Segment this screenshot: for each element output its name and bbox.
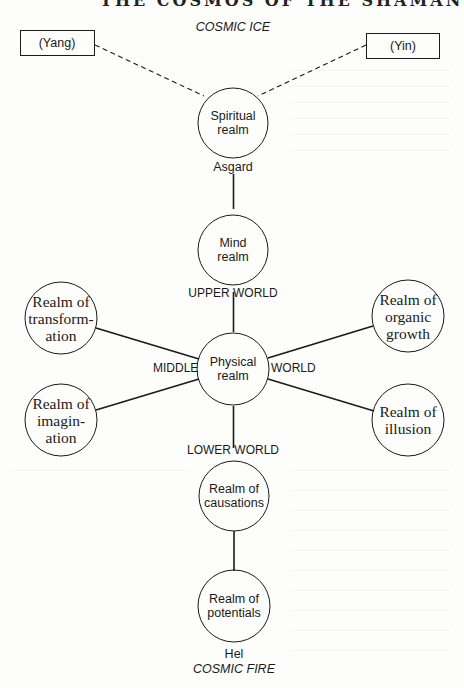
world-label: WORLD xyxy=(271,362,316,374)
cosmology-diagram: THE COSMOS OF THE SHAMAN xyxy=(0,0,464,688)
lower-world-label: LOWER WORLD xyxy=(187,444,279,456)
node-line: realm xyxy=(217,250,248,264)
mind-realm-node: Mind realm xyxy=(217,236,248,264)
node-line: realm xyxy=(210,123,255,137)
cosmic-fire-label: COSMIC FIRE xyxy=(193,663,275,676)
node-line: Physical xyxy=(210,355,257,369)
node-line: Mind xyxy=(217,236,248,250)
middle-label: MIDDLE xyxy=(153,362,198,374)
node-line: causations xyxy=(204,496,264,510)
node-line: Realm of xyxy=(204,482,264,496)
yin-connector xyxy=(258,45,366,96)
potentials-realm-node: Realm of potentials xyxy=(207,592,261,620)
node-line: ation xyxy=(32,429,89,446)
imagination-connector xyxy=(96,379,199,410)
node-line: Spiritual xyxy=(210,109,255,123)
causations-realm-node: Realm of causations xyxy=(204,482,264,510)
node-line: Realm of xyxy=(28,293,93,310)
node-line: potentials xyxy=(207,606,261,620)
node-line: Realm of xyxy=(379,291,436,308)
spiritual-realm-node: Spiritual realm xyxy=(210,109,255,137)
node-line: Realm of xyxy=(207,592,261,606)
hel-label: Hel xyxy=(225,648,244,661)
transformation-realm-node: Realm of transform- ation xyxy=(28,293,93,344)
node-line: Realm of xyxy=(32,395,89,412)
physical-realm-node: Physical realm xyxy=(210,355,257,383)
node-line: growth xyxy=(379,325,436,342)
cosmic-ice-label: COSMIC ICE xyxy=(196,21,270,34)
organic-growth-connector xyxy=(268,326,373,358)
organic-growth-realm-node: Realm of organic growth xyxy=(379,291,436,342)
illusion-realm-node: Realm of illusion xyxy=(379,403,436,437)
illusion-connector xyxy=(268,379,374,411)
imagination-realm-node: Realm of imagin- ation xyxy=(32,395,89,446)
yang-connector xyxy=(95,45,204,96)
node-line: realm xyxy=(210,369,257,383)
diagram-graphics xyxy=(0,0,464,688)
node-line: imagin- xyxy=(32,412,89,429)
node-line: transform- xyxy=(28,310,93,327)
yang-label: (Yang) xyxy=(39,36,76,50)
node-line: Realm of xyxy=(379,403,436,420)
upper-world-label: UPPER WORLD xyxy=(188,287,277,299)
node-line: organic xyxy=(379,308,436,325)
transformation-connector xyxy=(96,328,199,359)
node-line: illusion xyxy=(379,420,436,437)
asgard-label: Asgard xyxy=(213,161,253,174)
node-line: ation xyxy=(28,327,93,344)
yin-label: (Yin) xyxy=(390,39,416,53)
